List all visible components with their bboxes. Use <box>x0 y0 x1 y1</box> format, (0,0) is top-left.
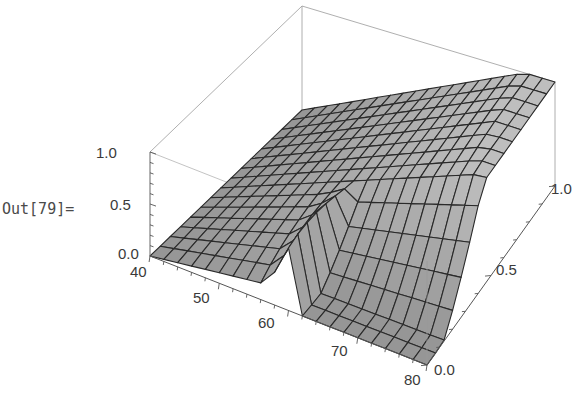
y-tick-label: 1.0 <box>551 180 572 197</box>
y-tick-label: 0.5 <box>496 261 517 278</box>
z-tick-label: 1.0 <box>96 144 117 161</box>
surface-mesh <box>150 74 555 365</box>
x-tick-label: 60 <box>258 314 275 331</box>
y-tick-label: 0.0 <box>434 361 455 378</box>
surface-plot-3d: 1.0 0.5 0.0 40 50 60 70 80 0.0 0.5 1.0 <box>0 0 573 393</box>
z-tick-label: 0.5 <box>110 196 131 213</box>
x-tick-label: 80 <box>404 371 421 388</box>
x-tick-label: 70 <box>331 342 348 359</box>
x-tick-label: 40 <box>130 263 147 280</box>
x-tick-label: 50 <box>193 289 210 306</box>
z-tick-label: 0.0 <box>118 245 139 262</box>
